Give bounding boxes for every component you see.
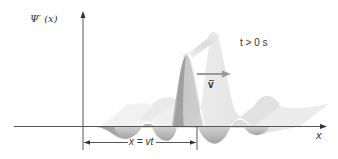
wave-diagram: Ψ′ (x) x t > 0 s v x = vt bbox=[0, 0, 338, 159]
y-axis-label: Ψ′ (x) bbox=[30, 14, 58, 24]
trough-2 bbox=[152, 127, 177, 141]
displacement-label: x = vt bbox=[129, 137, 153, 147]
y-axis-arrowhead-icon bbox=[81, 11, 86, 18]
dimension-right-arrowhead-icon bbox=[190, 140, 196, 144]
time-label: t > 0 s bbox=[240, 38, 268, 48]
trough-3 bbox=[198, 127, 230, 144]
x-axis-label: x bbox=[316, 130, 322, 141]
dimension-left-arrowhead-icon bbox=[84, 140, 90, 144]
trough-4 bbox=[244, 127, 269, 135]
velocity-label: v bbox=[208, 80, 214, 90]
